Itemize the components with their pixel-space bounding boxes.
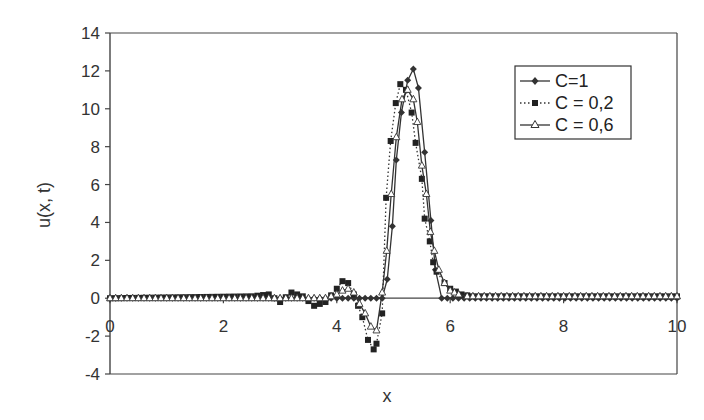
line-chart: -4-202468101214 0246810 x u(x, t) C=1 C … [0, 0, 704, 420]
legend: C=1 C = 0,2 C = 0,6 [515, 66, 631, 139]
x-tick-label: 2 [219, 317, 228, 336]
x-tick-label: 8 [559, 317, 568, 336]
y-tick-label: 6 [91, 176, 100, 195]
y-tick-label: 8 [91, 138, 100, 157]
y-tick-label: 10 [81, 100, 100, 119]
square-marker-icon [532, 100, 538, 106]
x-axis: 0246810 [105, 298, 686, 336]
legend-label: C = 0,6 [555, 115, 614, 135]
x-tick-label: 10 [668, 317, 687, 336]
y-tick-label: 2 [91, 251, 100, 270]
y-tick-label: 12 [81, 62, 100, 81]
y-tick-label: 0 [91, 289, 100, 308]
y-tick-label: -2 [85, 327, 100, 346]
x-axis-title: x [383, 386, 392, 406]
y-axis-title: u(x, t) [34, 182, 54, 228]
x-tick-label: 6 [445, 317, 454, 336]
x-tick-label: 4 [332, 317, 341, 336]
legend-label: C = 0,2 [555, 93, 614, 113]
x-tick-label: 0 [105, 317, 114, 336]
y-tick-label: 14 [81, 24, 100, 43]
y-tick-label: 4 [91, 213, 100, 232]
legend-label: C=1 [555, 71, 589, 91]
y-tick-label: -4 [85, 365, 100, 384]
